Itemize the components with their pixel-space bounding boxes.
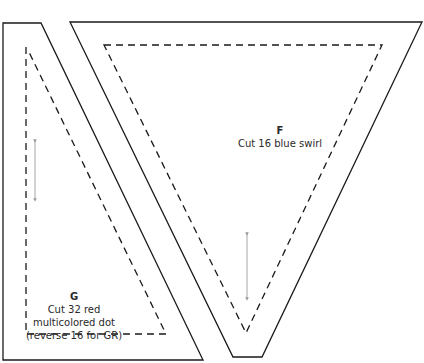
piece-f-label: F Cut 16 blue swirl bbox=[220, 124, 340, 150]
piece-g-instruction-line-2: multicolored dot bbox=[14, 316, 134, 329]
piece-f-seam-line bbox=[104, 45, 382, 333]
piece-g-instruction-line-3: (reverse 16 for GR) bbox=[14, 329, 134, 342]
piece-g-label: G Cut 32 red multicolored dot (reverse 1… bbox=[14, 290, 134, 342]
piece-g-letter: G bbox=[14, 290, 134, 303]
piece-f-letter: F bbox=[220, 124, 340, 137]
piece-g-instruction-line-1: Cut 32 red bbox=[14, 303, 134, 316]
piece-f-instruction: Cut 16 blue swirl bbox=[238, 138, 322, 149]
